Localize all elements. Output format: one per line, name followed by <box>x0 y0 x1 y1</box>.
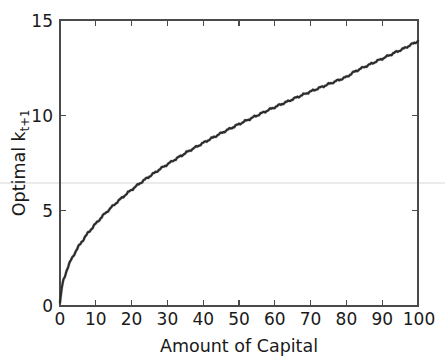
y-tick-label-10: 10 <box>31 106 53 126</box>
x-tick-label-60: 60 <box>264 309 286 329</box>
x-tick-label-40: 40 <box>192 309 214 329</box>
y-axis-title-subscript: t+1 <box>18 110 32 131</box>
y-tick-label-0: 0 <box>42 296 53 316</box>
y-axis-right-ticks <box>412 115 418 210</box>
y-axis-title: Optimal kt+1 <box>9 110 32 216</box>
x-tick-label-20: 20 <box>121 309 143 329</box>
x-tick-label-90: 90 <box>371 309 393 329</box>
chart-svg: 0 10 20 30 40 50 60 70 80 90 100 0 5 10 … <box>0 0 445 364</box>
y-tick-label-15: 15 <box>31 11 53 31</box>
x-tick-label-100: 100 <box>403 309 435 329</box>
x-tick-label-0: 0 <box>55 309 66 329</box>
y-axis-title-group: Optimal kt+1 <box>9 110 32 216</box>
x-tick-label-50: 50 <box>228 309 250 329</box>
x-axis-top-ticks <box>96 20 382 26</box>
y-tick-labels: 0 5 10 15 <box>31 11 53 316</box>
y-axis-title-main: Optimal k <box>9 130 29 216</box>
plot-frame <box>60 20 418 306</box>
data-series-group <box>60 41 418 303</box>
x-tick-label-10: 10 <box>85 309 107 329</box>
x-tick-labels: 0 10 20 30 40 50 60 70 80 90 100 <box>55 309 436 329</box>
x-axis-ticks <box>60 300 418 306</box>
x-tick-label-30: 30 <box>157 309 179 329</box>
x-axis-title: Amount of Capital <box>160 336 318 356</box>
optimal-capital-curve <box>60 41 418 303</box>
axis-box <box>60 20 418 306</box>
y-tick-label-5: 5 <box>42 201 53 221</box>
optimal-capital-curve-shadow <box>60 41 418 303</box>
x-tick-label-80: 80 <box>336 309 358 329</box>
chart-figure: 0 10 20 30 40 50 60 70 80 90 100 0 5 10 … <box>0 0 445 364</box>
x-tick-label-70: 70 <box>300 309 322 329</box>
y-axis-ticks <box>60 20 66 306</box>
